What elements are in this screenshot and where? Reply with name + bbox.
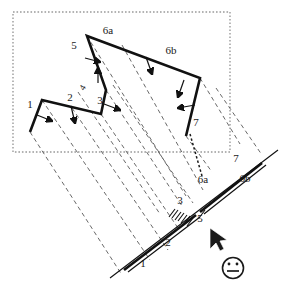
arrow-5 — [85, 58, 100, 62]
ray-5b — [113, 85, 193, 203]
ray-1b — [42, 100, 150, 260]
ray-2 — [72, 108, 168, 250]
plan-label-7: 7 — [193, 116, 199, 128]
projection-label-group: 1 2 3 5 6a 6b 7 — [140, 152, 251, 269]
ray-3b — [106, 90, 182, 206]
plan-label-1: 1 — [27, 98, 33, 110]
projected-band-right-lower — [200, 163, 262, 212]
diagram-canvas: 1 2 3 4 5 6a 6b 7 1 2 3 5 6a 6b 7 — [0, 0, 288, 290]
projection-rays — [30, 36, 262, 275]
proj-label-6a: 6a — [198, 173, 209, 185]
proj-label-5: 5 — [197, 212, 203, 224]
projected-band-upper — [128, 217, 200, 272]
projection-line-group — [110, 150, 278, 278]
proj-label-2: 2 — [165, 236, 171, 248]
proj-label-3: 3 — [177, 194, 183, 206]
ray-3a — [101, 114, 178, 228]
projected-band-right-upper — [204, 165, 266, 214]
arrow-1 — [37, 115, 52, 121]
ray-1a — [30, 132, 122, 275]
plan-label-5: 5 — [71, 39, 77, 51]
plan-label-6a: 6a — [103, 24, 114, 36]
proj-label-6b: 6b — [240, 172, 252, 184]
proj-label-1: 1 — [140, 257, 146, 269]
proj-label-7: 7 — [233, 152, 239, 164]
ray-7a — [216, 88, 262, 155]
plan-label-group: 1 2 3 4 5 6a 6b 7 — [27, 24, 199, 128]
arrow-3 — [104, 104, 120, 110]
arrow-6b — [178, 80, 184, 97]
plan-label-4: 4 — [77, 83, 88, 92]
projection-diagram: 1 2 3 4 5 6a 6b 7 1 2 3 5 6a 6b 7 — [0, 0, 288, 290]
plan-label-3: 3 — [97, 94, 103, 106]
plan-label-2: 2 — [67, 91, 73, 103]
ray-6b — [200, 78, 240, 144]
mouse-pointer-icon[interactable] — [210, 228, 227, 251]
dotted-frame — [13, 12, 230, 152]
neutral-face-icon — [223, 258, 244, 279]
plan-label-6b: 6b — [166, 44, 178, 56]
